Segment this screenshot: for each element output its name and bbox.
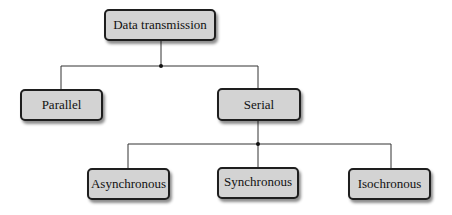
junction-dot — [159, 64, 163, 68]
node-label: Synchronous — [224, 174, 292, 190]
node-label: Serial — [244, 97, 274, 113]
node-synchronous: Synchronous — [217, 167, 299, 199]
node-label: Isochronous — [358, 176, 422, 192]
junction-dot — [256, 142, 260, 146]
node-isochronous: Isochronous — [348, 168, 431, 200]
node-asynchronous: Asynchronous — [87, 168, 170, 200]
node-parallel: Parallel — [20, 89, 103, 121]
node-label: Parallel — [42, 97, 82, 113]
node-label: Asynchronous — [91, 176, 166, 192]
node-label: Data transmission — [113, 17, 207, 33]
node-data-transmission: Data transmission — [104, 9, 216, 41]
node-serial: Serial — [217, 88, 301, 121]
tree-diagram: Data transmission Parallel Serial Asynch… — [0, 0, 452, 215]
